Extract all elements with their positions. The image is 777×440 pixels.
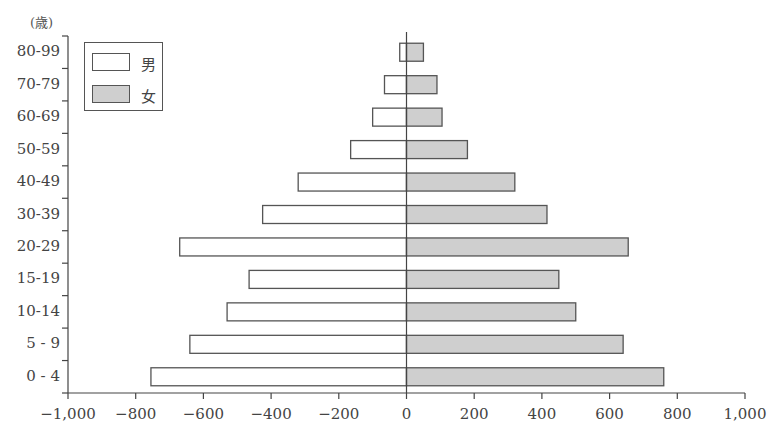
bar-female bbox=[407, 76, 437, 94]
bar-male bbox=[384, 76, 406, 94]
bar-male bbox=[151, 368, 407, 386]
x-tick-label: 600 bbox=[575, 405, 645, 423]
bar-male bbox=[400, 43, 407, 61]
bar-female bbox=[407, 270, 559, 288]
x-tick-label: 1,000 bbox=[710, 405, 777, 423]
bar-male bbox=[351, 141, 407, 159]
bar-female bbox=[407, 108, 443, 126]
bar-male bbox=[227, 303, 406, 321]
bar-male bbox=[298, 173, 406, 191]
legend-label-male: 男 bbox=[141, 53, 156, 74]
bar-male bbox=[263, 206, 407, 224]
y-tick-label: 70-79 bbox=[0, 75, 60, 93]
x-tick-label: −400 bbox=[236, 405, 306, 423]
x-tick-label: −600 bbox=[168, 405, 238, 423]
bar-female bbox=[407, 43, 424, 61]
y-tick-label: 80-99 bbox=[0, 42, 60, 60]
x-tick-label: 800 bbox=[642, 405, 712, 423]
y-tick-label: 5 - 9 bbox=[0, 334, 60, 352]
bar-male bbox=[190, 335, 407, 353]
x-tick-label: −200 bbox=[304, 405, 374, 423]
x-tick-label: 0 bbox=[372, 405, 442, 423]
legend-swatch-male bbox=[92, 53, 130, 71]
bar-male bbox=[249, 270, 406, 288]
y-tick-label: 0 - 4 bbox=[0, 367, 60, 385]
y-tick-label: 50-59 bbox=[0, 140, 60, 158]
x-tick-label: −800 bbox=[101, 405, 171, 423]
bar-female bbox=[407, 335, 624, 353]
bar-female bbox=[407, 141, 468, 159]
bar-male bbox=[373, 108, 407, 126]
y-tick-label: 15-19 bbox=[0, 269, 60, 287]
bar-female bbox=[407, 303, 576, 321]
bar-female bbox=[407, 238, 629, 256]
y-tick-label: 60-69 bbox=[0, 107, 60, 125]
y-tick-label: 30-39 bbox=[0, 205, 60, 223]
x-tick-label: 200 bbox=[439, 405, 509, 423]
bar-female bbox=[407, 173, 515, 191]
bar-female bbox=[407, 368, 664, 386]
bar-male bbox=[180, 238, 407, 256]
legend-swatch-female bbox=[92, 85, 130, 103]
bar-female bbox=[407, 206, 547, 224]
y-tick-label: 20-29 bbox=[0, 237, 60, 255]
x-tick-label: 400 bbox=[507, 405, 577, 423]
legend: 男 女 bbox=[84, 42, 163, 111]
y-tick-label: 40-49 bbox=[0, 172, 60, 190]
y-tick-label: 10-14 bbox=[0, 302, 60, 320]
x-tick-label: −1,000 bbox=[33, 405, 103, 423]
legend-label-female: 女 bbox=[141, 85, 156, 106]
